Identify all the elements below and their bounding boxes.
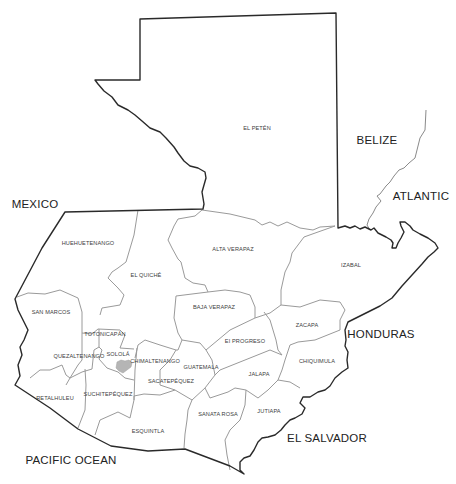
label-suchitepequez: SUCHITEPÉQUEZ [84, 391, 133, 397]
label-alta-verapaz: ALTA VERAPAZ [212, 246, 253, 252]
label-santa-rosa: SANATA ROSA [198, 411, 238, 417]
label-mexico: MEXICO [12, 198, 59, 210]
label-el-quiche: EL QUICHÉ [131, 272, 162, 278]
label-huehuetenango: HUEHUETENANGO [62, 240, 115, 246]
label-escuintla: ESQUINTLA [132, 428, 165, 434]
label-chiquimula: CHIQUIMULA [299, 358, 335, 364]
label-zacapa: ZACAPA [296, 322, 319, 328]
label-pacific-ocean: PACIFIC OCEAN [25, 454, 116, 466]
label-quezaltenango: QUEZALTENANGO [54, 353, 105, 359]
label-totonicapan: TOTONICAPÁN [84, 331, 125, 337]
label-solola: SOLOLÁ [107, 351, 130, 357]
label-sacatepequez: SACATEPÉQUEZ [148, 378, 194, 384]
label-honduras: HONDURAS [347, 328, 414, 340]
label-izabal: IZABAL [341, 262, 361, 268]
label-el-peten: EL PETÉN [243, 125, 271, 131]
label-el-salvador: EL SALVADOR [287, 432, 367, 444]
label-san-marcos: SAN MARCOS [32, 309, 71, 315]
label-el-progreso: EI PROGRESO [225, 338, 265, 344]
label-jutiapa: JUTIAPA [257, 408, 280, 414]
label-atlantic: ATLANTIC [393, 190, 449, 202]
label-belize: BELIZE [357, 134, 398, 146]
belize-boundary-line [367, 110, 426, 230]
label-jalapa: JALAPA [248, 371, 269, 377]
department-borders [17, 210, 345, 470]
label-baja-verapaz: BAJA VERAPAZ [193, 304, 235, 310]
label-guatemala: GUATEMALA [184, 364, 219, 370]
label-retalhuleu: RETALHULEU [36, 395, 74, 401]
label-chimaltenango: CHIMALTENANGO [130, 358, 180, 364]
